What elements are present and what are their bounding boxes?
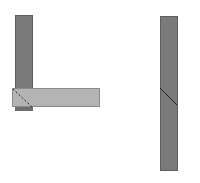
left-miter-dashed-line [13,89,32,107]
miter-lines-overlay [0,0,200,183]
right-miter-solid-line [160,88,177,105]
